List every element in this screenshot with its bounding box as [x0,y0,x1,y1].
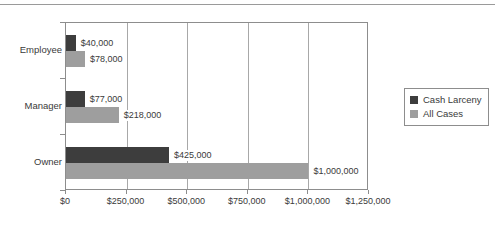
legend-label: Cash Larceny [423,95,482,105]
chart-legend: Cash LarcenyAll Cases [404,88,489,126]
top-divider-rule [0,4,495,5]
category-label-employee: Employee [2,45,62,55]
value-axis: $0$250,000$500,000$750,000$1,000,000$1,2… [65,190,368,212]
category-label-owner: Owner [2,157,62,167]
bar-value-label: $77,000 [88,94,125,105]
bar-group: $425,000$1,000,000 [66,135,367,191]
bar-employee-all-cases [66,51,85,67]
value-tick [186,190,187,194]
bar-value-label: $218,000 [122,110,164,121]
bar-value-label: $78,000 [88,54,125,65]
value-tick-label: $500,000 [167,197,205,206]
value-tick [247,190,248,194]
bar-group: $77,000$218,000 [66,79,367,135]
bar-value-label: $425,000 [172,150,214,161]
value-tick [307,190,308,194]
bar-value-label: $40,000 [79,38,116,49]
value-tick-label: $1,000,000 [285,197,330,206]
bar-manager-all-cases [66,107,119,123]
legend-item-cash-larceny: Cash Larceny [410,93,482,107]
value-tick-label: $1,250,000 [345,197,390,206]
category-label-manager: Manager [2,101,62,111]
value-tick-label: $750,000 [228,197,266,206]
legend-swatch-icon [410,96,418,104]
value-tick-label: $0 [60,197,70,206]
category-axis: EmployeeManagerOwner [0,22,62,190]
legend-label: All Cases [423,109,463,119]
legend-item-all-cases: All Cases [410,107,482,121]
value-tick [126,190,127,194]
bar-owner-all-cases [66,163,308,179]
bar-owner-cash-larceny [66,147,169,163]
value-tick-label: $250,000 [107,197,145,206]
bar-value-label: $1,000,000 [311,166,360,177]
legend-swatch-icon [410,110,418,118]
value-tick [65,190,66,194]
bar-manager-cash-larceny [66,91,85,107]
value-tick [368,190,369,194]
plot-area: $40,000$78,000$77,000$218,000$425,000$1,… [65,22,368,190]
bar-group: $40,000$78,000 [66,23,367,79]
bar-employee-cash-larceny [66,35,76,51]
